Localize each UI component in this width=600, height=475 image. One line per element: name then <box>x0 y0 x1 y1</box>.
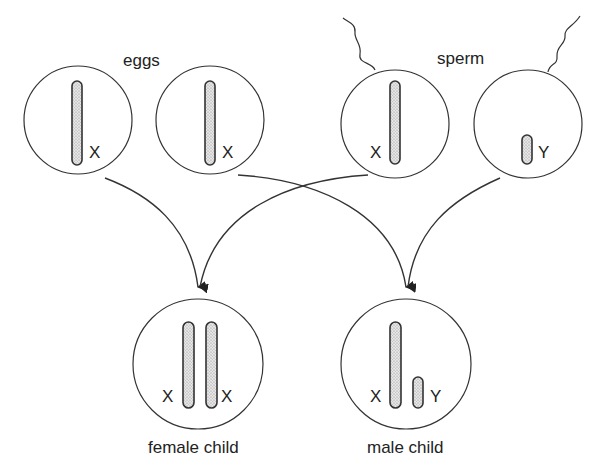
egg-cell-1: X <box>24 66 132 174</box>
arrow-egg1-to-female <box>105 178 198 287</box>
arrow-egg2-to-male <box>238 175 406 287</box>
inheritance-diagram: eggs sperm X X X Y X X female child <box>0 0 600 475</box>
sperm-cell-1: X <box>341 18 449 178</box>
y-chromosome <box>413 377 423 408</box>
female-child-label: female child <box>148 438 239 457</box>
sperm-tail-icon <box>343 18 375 70</box>
y-chromosome <box>522 135 532 164</box>
x-chromosome <box>390 81 400 164</box>
chromosome-label-y: Y <box>538 143 549 162</box>
chromosome-label-x: X <box>162 387 173 406</box>
sperm-cell-2: Y <box>474 16 582 178</box>
x-chromosome <box>205 81 215 165</box>
sperm-label: sperm <box>437 49 484 68</box>
female-child-membrane <box>133 299 263 429</box>
x-chromosome <box>72 81 82 165</box>
x-chromosome <box>390 322 401 408</box>
egg-cell-2: X <box>156 66 264 174</box>
chromosome-label-y: Y <box>430 387 441 406</box>
female-child-cell: X X <box>133 299 263 429</box>
arrow-sperm1-to-female <box>200 175 368 287</box>
chromosome-label-x: X <box>370 143 381 162</box>
chromosome-label-x: X <box>370 387 381 406</box>
x-chromosome <box>206 322 217 408</box>
chromosome-label-x: X <box>221 387 232 406</box>
arrow-sperm2-to-male <box>408 178 500 287</box>
chromosome-label-x: X <box>89 143 100 162</box>
male-child-membrane <box>341 299 471 429</box>
male-child-cell: X Y <box>341 299 471 429</box>
male-child-label: male child <box>367 438 444 457</box>
x-chromosome <box>183 322 194 408</box>
chromosome-label-x: X <box>222 143 233 162</box>
sperm-tail-icon <box>548 16 580 72</box>
eggs-label: eggs <box>123 51 160 70</box>
